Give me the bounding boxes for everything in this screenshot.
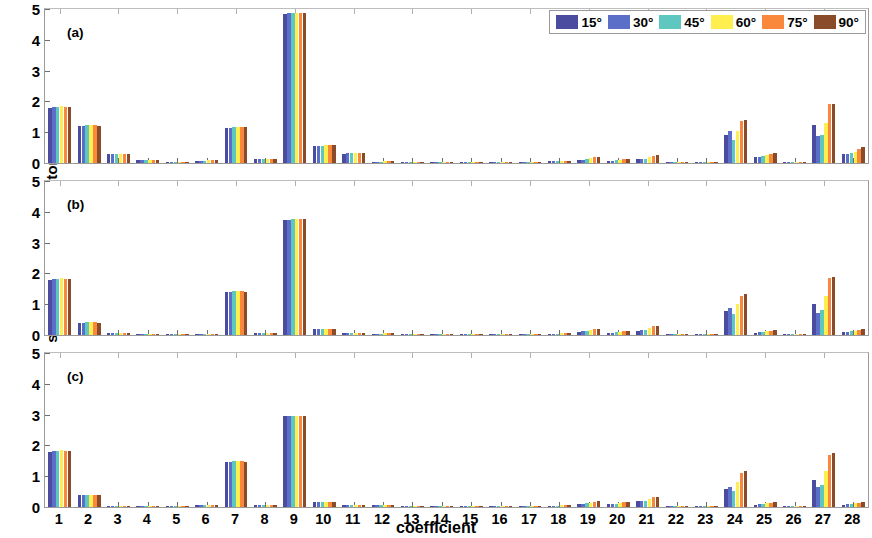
bar [52,107,55,163]
bar-group [163,353,192,507]
x-tick-label: 13 [403,512,419,527]
bar [56,279,59,335]
bar [111,333,114,335]
bar [273,159,276,163]
bar [232,291,235,335]
bar [761,504,764,507]
bar [479,162,482,163]
bar [552,506,555,507]
bar [166,506,169,507]
legend-item[interactable]: 75° [760,15,809,30]
bar [350,153,353,163]
bar-group [662,353,691,507]
bar [714,334,717,335]
bar [287,13,290,163]
bar [493,162,496,163]
legend: 15°30°45°60°75°90° [549,10,866,34]
bar-group [692,353,721,507]
bar [714,162,717,163]
bar [648,157,651,163]
bar [332,329,335,335]
bar [538,506,541,507]
bar [724,135,727,163]
bar [152,160,155,163]
bar [787,334,790,335]
bar [324,329,327,335]
legend-item[interactable]: 60° [709,15,758,30]
bar [215,160,218,163]
x-tick-label: 2 [84,512,92,527]
bar [703,506,706,507]
bar-group [221,353,250,507]
bar [170,334,173,335]
bar [479,506,482,507]
bar [342,333,345,335]
bar [258,159,261,163]
bar-group [310,181,339,335]
bar [148,506,151,507]
bar [215,334,218,335]
legend-item[interactable]: 30° [606,15,655,30]
bar [799,162,802,163]
bar [215,505,218,507]
bar-group [750,353,779,507]
bar [816,313,819,335]
bar [519,334,522,335]
bar [328,329,331,335]
bar [195,505,198,507]
bar [832,104,835,163]
bar [434,506,437,507]
bar [438,162,441,163]
bar-group [633,181,662,335]
bar [85,125,88,163]
bar [48,108,51,163]
bar [89,125,92,163]
bar [178,162,181,163]
legend-item[interactable]: 45° [657,15,706,30]
legend-item[interactable]: 15° [554,15,603,30]
bar [497,334,500,335]
bar-group [251,181,280,335]
bar [136,160,139,163]
bar [677,334,680,335]
bar-group [457,9,486,163]
bar-group [809,353,838,507]
bar [656,497,659,507]
bar [78,126,81,163]
x-tick-label: 10 [315,512,331,527]
bar [732,140,735,163]
bar [685,506,688,507]
bar [611,504,614,507]
bar-group [398,353,427,507]
bar [795,162,798,163]
bar [317,502,320,507]
bar [615,504,618,507]
bar [107,506,110,507]
bar-group [486,9,515,163]
bar [854,331,857,335]
bar [207,334,210,335]
bar [375,505,378,507]
bar [295,416,298,507]
bar [144,160,147,163]
bar [567,333,570,335]
bar [56,107,59,163]
bar [203,505,206,507]
x-tick-label: 12 [374,512,390,527]
bar-group [486,181,515,335]
bar [244,292,247,335]
bar-group [339,353,368,507]
bar-group [251,353,280,507]
bar [401,334,404,335]
bar [648,499,651,507]
bar [123,333,126,335]
bar [732,314,735,335]
bar [85,495,88,507]
bar [656,155,659,163]
bar [471,334,474,335]
bar-group [133,353,162,507]
legend-item[interactable]: 90° [812,15,861,30]
bar [417,506,420,507]
bar [52,451,55,507]
bar [791,334,794,335]
